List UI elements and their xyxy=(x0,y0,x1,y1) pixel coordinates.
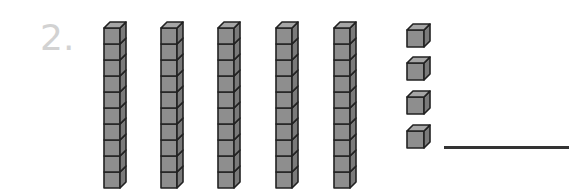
tens-rod xyxy=(218,22,240,188)
ones-cube xyxy=(407,125,430,148)
ones-cube xyxy=(407,57,430,80)
tens-rod xyxy=(161,22,183,188)
tens-rod xyxy=(334,22,356,188)
ones-cube xyxy=(407,24,430,47)
tens-rod xyxy=(104,22,126,188)
ones-cube xyxy=(407,91,430,114)
base-ten-blocks xyxy=(0,0,587,192)
answer-blank-line[interactable] xyxy=(444,146,569,149)
tens-rod xyxy=(276,22,298,188)
